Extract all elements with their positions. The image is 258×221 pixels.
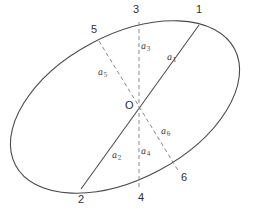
ellipse-outline (0, 0, 258, 221)
chord-1-2 (81, 25, 199, 189)
figure-container: 1 2 3 4 5 6 O a1 a2 a3 a4 a5 a6 (0, 0, 258, 221)
ellipse-diagram (0, 0, 258, 221)
chords-group (81, 22, 199, 190)
ellipse-outline-group (0, 0, 258, 221)
